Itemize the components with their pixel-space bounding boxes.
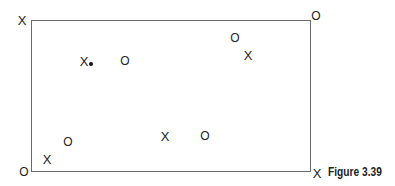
corner-mark-top-left: X	[18, 14, 27, 27]
interior-mark-o: O	[63, 136, 72, 149]
interior-mark-o: O	[120, 55, 129, 68]
interior-mark-x: X	[80, 55, 89, 68]
corner-mark-bottom-right: X	[313, 167, 322, 180]
figure-caption: Figure 3.39	[328, 165, 382, 179]
interior-mark-x: X	[161, 130, 170, 143]
interior-mark-x: X	[244, 49, 253, 62]
corner-mark-bottom-left: O	[19, 166, 28, 179]
interior-mark-o: O	[230, 32, 239, 45]
interior-mark-o: O	[200, 130, 209, 143]
corner-mark-top-right: O	[311, 10, 320, 23]
board-rectangle	[31, 20, 311, 172]
interior-mark-x: X	[43, 153, 52, 166]
point-dot	[89, 62, 93, 66]
